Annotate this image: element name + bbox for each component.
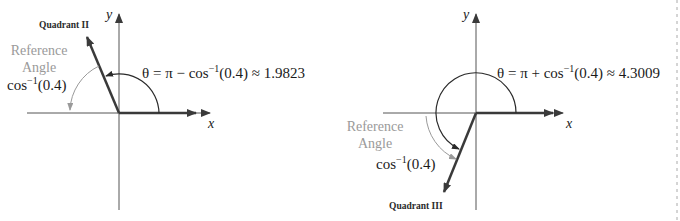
y-axis-label: y [461, 7, 470, 22]
terminal-vector [444, 113, 476, 192]
theta-sup: −1 [564, 63, 575, 74]
y-axis-label: y [104, 7, 113, 22]
theta-sup: −1 [209, 63, 220, 74]
reference-label-line1: Reference [11, 43, 68, 58]
reference-value-prefix: cos [376, 156, 396, 172]
reference-value-sup: −1 [27, 75, 38, 86]
theta-prefix: θ = π − cos [142, 65, 209, 81]
x-axis-label: x [565, 116, 573, 131]
reference-value: cos−1(0.4) [376, 154, 435, 173]
reference-label-line1: Reference [347, 119, 404, 134]
x-axis-label: x [207, 116, 215, 131]
theta-equation: θ = π − cos−1(0.4) ≈ 1.9823 [142, 63, 305, 82]
terminal-vector [87, 37, 119, 113]
right-panel: Quadrant III y x Reference Angle cos−1(0… [347, 7, 660, 211]
reference-value-suffix: (0.4) [38, 77, 67, 94]
reference-arc [426, 116, 456, 159]
left-panel: Quadrant II y x Reference Angle cos−1(0.… [7, 7, 305, 210]
theta-suffix: (0.4) ≈ 1.9823 [219, 65, 305, 82]
reference-label-line2: Angle [358, 136, 392, 151]
theta-equation: θ = π + cos−1(0.4) ≈ 4.3009 [497, 63, 660, 82]
reference-value-sup: −1 [396, 154, 407, 165]
reference-label-line2: Angle [22, 60, 56, 75]
theta-suffix: (0.4) ≈ 4.3009 [574, 65, 660, 82]
reference-value-prefix: cos [7, 77, 27, 93]
quadrant-label: Quadrant III [389, 201, 443, 211]
theta-prefix: θ = π + cos [497, 65, 564, 81]
reference-arc [70, 66, 99, 110]
reference-value: cos−1(0.4) [7, 75, 66, 94]
reference-value-suffix: (0.4) [407, 156, 436, 173]
quadrant-label: Quadrant II [39, 20, 89, 30]
diagram-canvas: Quadrant II y x Reference Angle cos−1(0.… [0, 0, 680, 221]
